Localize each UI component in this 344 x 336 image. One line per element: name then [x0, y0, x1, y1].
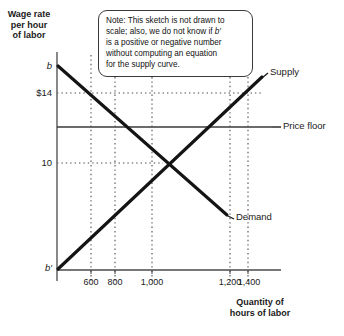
x-label-800: 800: [100, 277, 130, 288]
note-callout: Note: This sketch is not drawn to scale;…: [98, 10, 253, 77]
x-label-1000: 1,000: [134, 277, 170, 288]
demand-label: Demand: [236, 211, 272, 222]
x-label-1400: 1,400: [231, 277, 267, 288]
note-line-2a: scale; also, we do not know if: [106, 27, 215, 36]
price-floor-label: Price floor: [283, 120, 326, 131]
note-line-4: without computing an equation: [106, 49, 217, 58]
supply-leader-line: [262, 73, 268, 78]
y-axis-title: Wage rate per hour of labor: [4, 9, 54, 41]
note-line-3: is a positive or negative number: [106, 38, 222, 47]
demand-leader-line: [228, 216, 234, 219]
note-line-2b: b′: [215, 27, 221, 36]
y-label-14: $14: [18, 87, 52, 98]
y-label-10: 10: [18, 157, 52, 168]
chart-canvas: Wage rate per hour of labor Quantity of …: [0, 0, 344, 336]
y-label-b: b: [22, 60, 52, 71]
demand-curve: [58, 66, 227, 215]
y-label-b-prime: b′: [22, 262, 52, 273]
supply-label: Supply: [270, 66, 299, 77]
note-line-1: Note: This sketch is not drawn to: [106, 16, 225, 25]
note-line-5: for the supply curve.: [106, 60, 180, 69]
x-axis-title: Quantity of hours of labor: [215, 297, 305, 318]
supply-curve: [58, 77, 262, 269]
